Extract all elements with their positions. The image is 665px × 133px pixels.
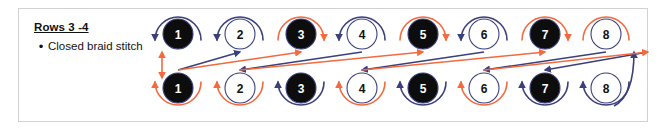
caption-list-item: • Closed braid stitch [34,39,156,54]
caption-block: Rows 3 -4 • Closed braid stitch [34,20,156,54]
caption-title: Rows 3 -4 [34,20,156,34]
caption-text: Closed braid stitch [48,39,143,54]
bullet-icon: • [34,39,48,54]
stitch-diagram-screenshot: Rows 3 -4 • Closed braid stitch 12345678… [0,0,665,133]
